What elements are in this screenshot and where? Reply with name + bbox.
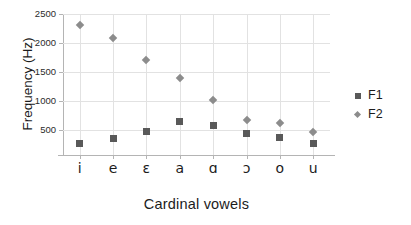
legend-item-f2[interactable]: F2	[355, 105, 407, 124]
y-tick-label: 2000	[28, 38, 56, 48]
data-point-f2-o	[276, 119, 284, 127]
gridline-horizontal	[63, 72, 330, 73]
diamond-marker-icon	[354, 111, 361, 118]
x-tick-mark	[247, 155, 248, 159]
legend-item-label: F2	[368, 105, 383, 124]
y-tick-mark	[59, 72, 63, 73]
y-tick-mark	[59, 14, 63, 15]
y-tick-label: 1500	[28, 67, 56, 77]
x-tick-mark	[313, 155, 314, 159]
x-tick-label-a: a	[163, 160, 197, 177]
x-tick-mark	[280, 155, 281, 159]
x-tick-mark	[113, 155, 114, 159]
x-tick-mark	[80, 155, 81, 159]
gridline-vertical	[80, 14, 81, 155]
y-tick-label: 500	[28, 125, 56, 135]
legend-item-f1[interactable]: F1	[355, 86, 407, 105]
data-point-f2-ɛ	[142, 56, 150, 64]
chart-screenshot: Frequency (Hz) 5001000150020002500 ieɛaɑ…	[0, 0, 411, 225]
gridline-horizontal	[63, 101, 330, 102]
data-point-f1-ɔ	[243, 130, 250, 137]
data-point-f2-i	[75, 21, 83, 29]
data-point-f1-e	[110, 135, 117, 142]
chart-legend: F1F2	[355, 86, 407, 124]
legend-item-label: F1	[368, 86, 383, 105]
x-tick-mark	[146, 155, 147, 159]
data-point-f1-ɛ	[143, 128, 150, 135]
y-axis-tick-labels: 5001000150020002500	[26, 0, 56, 225]
data-point-f1-u	[310, 140, 317, 147]
y-tick-label: 1000	[28, 96, 56, 106]
x-tick-label-ɔ: ɔ	[230, 160, 264, 177]
data-point-f2-ɔ	[242, 116, 250, 124]
data-point-f1-a	[176, 118, 183, 125]
y-tick-mark	[59, 43, 63, 44]
data-point-f1-i	[76, 140, 83, 147]
data-point-f2-e	[109, 34, 117, 42]
x-tick-label-ɛ: ɛ	[129, 160, 163, 177]
gridline-vertical	[213, 14, 214, 155]
data-point-f2-ɑ	[209, 96, 217, 104]
gridline-horizontal	[63, 130, 330, 131]
gridline-vertical	[180, 14, 181, 155]
data-point-f1-o	[276, 134, 283, 141]
x-axis-tick-labels: ieɛaɑɔou	[63, 160, 330, 178]
data-point-f2-a	[176, 73, 184, 81]
y-tick-mark	[59, 101, 63, 102]
y-tick-mark	[59, 130, 63, 131]
x-tick-label-e: e	[96, 160, 130, 177]
x-axis-title: Cardinal vowels	[63, 196, 330, 212]
gridline-horizontal	[63, 43, 330, 44]
x-tick-mark	[213, 155, 214, 159]
data-point-f1-ɑ	[210, 122, 217, 129]
x-axis-line	[58, 155, 335, 156]
plot-area	[63, 14, 330, 155]
gridline-horizontal	[63, 14, 330, 15]
x-tick-label-ɑ: ɑ	[196, 160, 230, 177]
y-tick-label: 2500	[28, 9, 56, 19]
x-tick-label-i: i	[63, 160, 97, 177]
x-tick-label-u: u	[296, 160, 330, 177]
x-tick-mark	[180, 155, 181, 159]
x-tick-label-o: o	[263, 160, 297, 177]
square-marker-icon	[355, 93, 361, 99]
